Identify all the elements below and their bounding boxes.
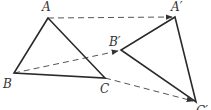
label-a-prime: A′	[170, 0, 183, 14]
label-a: A	[41, 0, 51, 14]
vector-a-to-a-prime	[48, 17, 172, 18]
label-b: B	[2, 77, 12, 91]
label-c-prime: C′	[196, 104, 208, 110]
label-b-prime: B′	[108, 35, 121, 49]
triangle-a-prime-b-prime-c-prime	[121, 17, 196, 102]
vector-b-to-b-prime	[14, 51, 118, 73]
translation-diagram: A B C A′ B′ C′	[0, 0, 211, 110]
triangle-abc	[14, 18, 105, 78]
vector-c-to-c-prime	[105, 78, 193, 101]
label-c: C	[100, 82, 109, 96]
